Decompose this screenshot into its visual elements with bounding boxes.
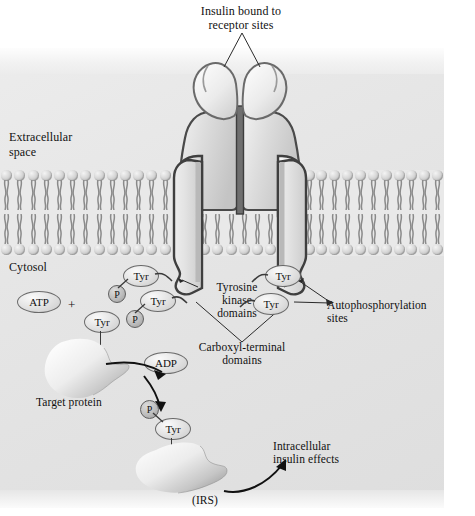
phospholipid-tail <box>421 214 428 244</box>
phospholipid-head <box>107 244 118 255</box>
phospholipid-tail <box>69 180 76 210</box>
phospholipid-tail <box>122 180 129 210</box>
phospholipid-head <box>394 244 405 255</box>
phospholipid-tail <box>16 180 23 210</box>
label-extracellular-space: Extracellular space <box>9 130 129 159</box>
phospholipid-tail <box>16 214 23 244</box>
phospholipid-tail <box>56 180 63 210</box>
phospholipid-tail <box>396 214 403 244</box>
phospholipid-tail <box>82 214 89 244</box>
phospholipid-head <box>28 244 39 255</box>
phospholipid-tail <box>344 214 351 244</box>
molecule-atp: ATP <box>17 291 61 313</box>
phospholipid-tail <box>56 214 63 244</box>
phospholipid-tail <box>30 214 37 244</box>
insulin-molecule-right <box>243 63 287 119</box>
phospholipid-head <box>355 244 366 255</box>
leader-insulin <box>196 33 288 69</box>
phospholipid-head <box>80 244 91 255</box>
bond-tyr-right-lower-receptor <box>240 296 256 310</box>
phospholipid-head <box>67 244 78 255</box>
phospholipid-head <box>120 244 131 255</box>
phospholipid-tail <box>135 214 142 244</box>
phospholipid-head <box>54 244 65 255</box>
phospholipid-head <box>14 244 25 255</box>
label-insulin-bound: Insulin bound to receptor sites <box>176 4 306 32</box>
phospholipid-tail <box>408 214 415 244</box>
phospholipid-tail <box>109 214 116 244</box>
phospholipid-head <box>1 244 12 255</box>
phospholipid-head <box>432 244 443 255</box>
phospholipid-tail <box>383 214 390 244</box>
phospholipid-tail <box>96 214 103 244</box>
bond-tyr-left-lower <box>133 303 147 315</box>
phospholipid-head <box>368 244 379 255</box>
label-cytosol: Cytosol <box>9 261 99 274</box>
phospholipid-tail <box>434 180 441 210</box>
label-autophosphorylation-sites: Autophosphorylation sites <box>327 299 453 325</box>
phospholipid-tail <box>396 180 403 210</box>
phospholipid-head <box>41 244 52 255</box>
figure-root: Insulin bound to receptor sites Extracel… <box>0 0 475 516</box>
phospholipid-tail <box>331 180 338 210</box>
phospholipid-tail <box>357 180 364 210</box>
phospholipid-tail <box>434 214 441 244</box>
phospholipid-tail <box>3 214 10 244</box>
bond-tyr-left-upper <box>116 278 130 290</box>
bond-tyr-left-lower-receptor <box>172 292 188 306</box>
phospholipid-tail <box>3 180 10 210</box>
phospholipid-tail <box>370 180 377 210</box>
phospholipid-head <box>342 244 353 255</box>
phospholipid-tail <box>69 214 76 244</box>
phospholipid-head <box>406 244 417 255</box>
phospholipid-tail <box>30 180 37 210</box>
bond-p-tyr-irs <box>152 412 166 424</box>
phospholipid-tail <box>331 214 338 244</box>
phospholipid-head <box>381 244 392 255</box>
phospholipid-head <box>329 244 340 255</box>
phospholipid-tail <box>370 214 377 244</box>
phospholipid-tail <box>408 180 415 210</box>
phospholipid-tail <box>82 180 89 210</box>
bond-tyr-right-upper-receptor <box>251 270 269 286</box>
phospholipid-tail <box>421 180 428 210</box>
phospholipid-tail <box>135 180 142 210</box>
plus-sign: + <box>68 299 82 312</box>
receptor-cleft <box>237 106 244 214</box>
phospholipid-tail <box>383 180 390 210</box>
phospholipid-tail <box>43 214 50 244</box>
phospholipid-tail <box>344 180 351 210</box>
arrow-intracellular-effects <box>222 455 302 497</box>
residue-tyr-right-upper: Tyr <box>265 265 301 287</box>
phospholipid-head <box>94 244 105 255</box>
phospholipid-tail <box>357 214 364 244</box>
phospholipid-tail <box>109 180 116 210</box>
bond-tyr-left-upper-receptor <box>155 268 173 284</box>
irs-protein-shape <box>132 440 230 496</box>
phospholipid-tail <box>96 180 103 210</box>
phospholipid-head <box>133 244 144 255</box>
residue-tyr-target-protein: Tyr <box>84 311 120 333</box>
residue-tyr-right-lower: Tyr <box>253 293 289 315</box>
insulin-molecule-left <box>194 63 238 119</box>
phospholipid-head <box>419 244 430 255</box>
phospholipid-tail <box>43 180 50 210</box>
phospholipid-tail <box>122 214 129 244</box>
